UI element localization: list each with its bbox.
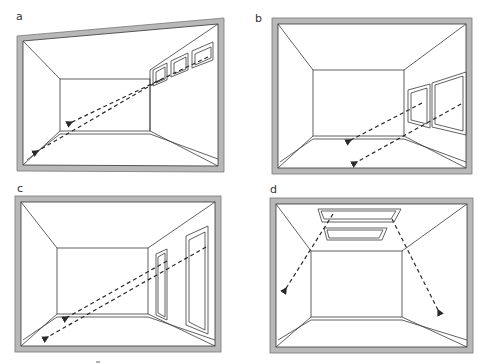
room-interior <box>276 204 467 347</box>
panel-a-room <box>17 18 224 172</box>
figure-canvas <box>0 0 484 364</box>
room-interior <box>23 24 218 166</box>
panel-b-room <box>272 18 472 174</box>
daylight-room-figure: a b c d <box>0 0 484 364</box>
panel-c-room <box>15 196 221 362</box>
panel-d-room <box>270 198 473 353</box>
